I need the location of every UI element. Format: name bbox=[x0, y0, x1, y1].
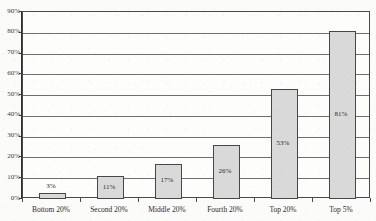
gridline bbox=[23, 95, 369, 96]
bar-value-label: 3% bbox=[31, 182, 71, 190]
cut-off-chart-title bbox=[0, 0, 376, 6]
y-axis-tick-label: 20% bbox=[0, 153, 20, 160]
gridline bbox=[23, 157, 369, 158]
y-axis-tick-label: 60% bbox=[0, 70, 20, 77]
bar-chart-screenshot: 0%10%20%30%40%50%60%70%80%90% 3%11%17%26… bbox=[0, 0, 376, 221]
x-axis-category-label: Fourth 20% bbox=[196, 205, 254, 214]
bar bbox=[39, 193, 66, 199]
x-axis-tick-mark bbox=[80, 198, 81, 202]
gridline bbox=[23, 178, 369, 179]
x-axis-category-label: Top 20% bbox=[254, 205, 312, 214]
gridline bbox=[23, 74, 369, 75]
x-axis-category-label: Top 5% bbox=[312, 205, 370, 214]
y-axis-tick-label: 50% bbox=[0, 91, 20, 98]
gridline bbox=[23, 33, 369, 34]
y-axis-tick-label: 0% bbox=[0, 195, 20, 202]
bar-value-label: 26% bbox=[205, 167, 245, 175]
y-axis-tick-label: 40% bbox=[0, 111, 20, 118]
x-axis-category-label: Middle 20% bbox=[138, 205, 196, 214]
x-axis-tick-mark bbox=[22, 198, 23, 202]
bar-value-label: 11% bbox=[89, 183, 129, 191]
x-axis-tick-mark bbox=[254, 198, 255, 202]
y-axis-tick-label: 30% bbox=[0, 132, 20, 139]
x-axis-tick-mark bbox=[312, 198, 313, 202]
gridline bbox=[23, 116, 369, 117]
bar-value-label: 17% bbox=[147, 176, 187, 184]
gridline bbox=[23, 54, 369, 55]
y-axis-tick-label: 90% bbox=[0, 8, 20, 15]
x-axis-category-label: Second 20% bbox=[80, 205, 138, 214]
x-axis-tick-mark bbox=[138, 198, 139, 202]
y-axis-tick-label: 80% bbox=[0, 28, 20, 35]
x-axis-tick-mark bbox=[196, 198, 197, 202]
gridline bbox=[23, 137, 369, 138]
bar-value-label: 81% bbox=[321, 110, 361, 118]
x-axis-tick-mark bbox=[370, 198, 371, 202]
x-axis-category-label: Bottom 20% bbox=[22, 205, 80, 214]
bar-value-label: 53% bbox=[263, 139, 303, 147]
y-axis-tick-label: 10% bbox=[0, 174, 20, 181]
y-axis-tick-label: 70% bbox=[0, 49, 20, 56]
plot-area bbox=[22, 11, 370, 198]
